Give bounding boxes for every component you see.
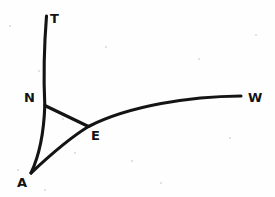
diagram-strokes xyxy=(31,16,241,173)
vertex-label-w: W xyxy=(248,91,262,104)
vertex-label-a: A xyxy=(17,176,27,189)
vertex-label-e: E xyxy=(91,129,100,142)
vertex-label-n: N xyxy=(24,91,35,104)
vertex-label-t: T xyxy=(50,12,59,25)
diagram-canvas: TNEWA xyxy=(0,0,275,197)
chord-line-N-to-E xyxy=(45,106,89,127)
diagram-drawing xyxy=(0,0,275,197)
arc-curve-A-to-W xyxy=(31,96,241,173)
